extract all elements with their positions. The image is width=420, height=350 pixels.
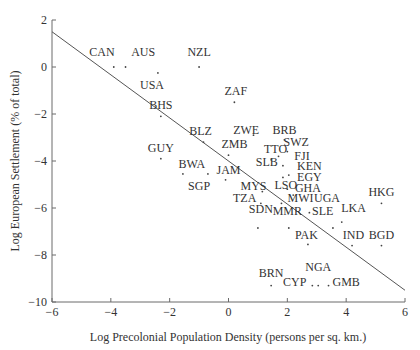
data-point-nga: NGA [305,260,331,286]
y-tick-label: −4 [34,154,47,168]
point-marker [332,227,334,229]
data-point-can: CAN [89,45,115,67]
point-label: IND [343,228,365,242]
point-marker [125,66,127,68]
data-point-mmr: MMR [273,204,302,229]
point-label: BHS [149,98,172,112]
data-point-cyp: CYP [283,275,313,289]
y-tick-label: 2 [41,13,47,27]
point-marker [228,154,230,156]
fit-line [52,32,405,291]
point-marker [182,173,184,175]
x-tick-label: 2 [284,305,290,319]
x-tick-label: −2 [163,305,176,319]
point-marker [257,227,259,229]
point-label: ZWE [233,123,259,137]
data-point-brn: BRN [259,266,284,286]
y-tick-label: −10 [28,295,47,309]
point-label: NZL [187,45,210,59]
point-label: USA [140,78,164,92]
data-point-hkg: HKG [368,185,394,204]
point-label: JAM [216,163,240,177]
data-point-nzl: NZL [187,45,210,67]
point-label: SLE [312,204,333,218]
point-marker [160,115,162,117]
point-label: SGP [188,179,210,193]
point-marker [308,212,310,214]
data-points: CANAUSNZLUSAZAFBHSBLZZWEBRBSWZZMBTTOFJIG… [89,45,394,288]
data-point-bhs: BHS [149,98,172,117]
point-marker [328,285,330,287]
point-label: GMB [332,275,359,289]
point-marker [381,202,383,204]
point-label: BWA [178,157,205,171]
data-point-bgd: BGD [369,228,395,247]
y-tick-label: 0 [41,60,47,74]
point-label: LKA [341,201,366,215]
point-label: UGA [314,191,340,205]
point-label: CYP [283,275,307,289]
y-tick-label: −8 [34,248,47,262]
x-tick-label: −4 [104,305,117,319]
point-marker [288,227,290,229]
scatter-chart: −6−4−2024620−2−4−6−8−10 CANAUSNZLUSAZAFB… [0,0,420,350]
point-marker [311,285,313,287]
data-point-bwa: BWA [178,157,205,175]
point-label: SDN [249,202,273,216]
point-marker [270,285,272,287]
point-label: PAK [295,228,318,242]
point-marker [113,66,115,68]
y-tick-label: −2 [34,107,47,121]
point-label: SLB [256,155,278,169]
data-point-zaf: ZAF [225,84,248,103]
point-label: ZMB [221,137,247,151]
point-marker [282,165,284,167]
point-label: HKG [368,185,394,199]
data-point-gmb: GMB [328,275,360,289]
data-point-sdn: SDN [249,202,273,229]
data-point-pak: PAK [295,228,318,246]
point-label: AUS [131,45,155,59]
x-tick-label: 6 [402,305,408,319]
point-label: ZAF [225,84,248,98]
data-point-sgp: SGP [188,173,210,193]
point-marker [341,221,343,223]
point-label: BGD [369,228,395,242]
point-marker [198,66,200,68]
plot-area: −6−4−2024620−2−4−6−8−10 CANAUSNZLUSAZAFB… [0,0,420,350]
point-label: BLZ [189,124,212,138]
x-tick-label: −6 [46,305,59,319]
point-marker [233,101,235,103]
point-marker [225,179,227,181]
point-label: CAN [89,45,115,59]
data-point-ind: IND [343,228,365,247]
point-label: BRN [259,266,284,280]
data-point-usa: USA [140,72,164,92]
data-point-aus: AUS [125,45,156,67]
point-marker [317,285,319,287]
regression-line [52,32,405,291]
point-marker [160,158,162,160]
data-point-jam: JAM [216,163,240,181]
point-label: TTO [264,142,287,156]
point-marker [203,141,205,143]
point-label: MMR [273,204,302,218]
point-marker [157,72,159,74]
x-tick-label: 4 [343,305,349,319]
point-marker [207,173,209,175]
x-axis-label: Log Precolonial Population Density (pers… [90,330,366,344]
y-tick-label: −6 [34,201,47,215]
point-marker [381,245,383,247]
point-label: SWZ [283,135,308,149]
data-point-zwe: ZWE [233,123,259,137]
point-marker [288,174,290,176]
y-axis-label: Log European Settlement (% of total) [8,71,22,252]
point-label: MWI [288,191,314,205]
data-point-zmb: ZMB [221,137,247,156]
data-point-slb: SLB [256,155,278,169]
data-point-sle: SLE [312,204,334,229]
point-marker [351,245,353,247]
point-label: NGA [305,260,331,274]
data-point-lka: LKA [341,201,366,223]
x-tick-label: 0 [226,305,232,319]
